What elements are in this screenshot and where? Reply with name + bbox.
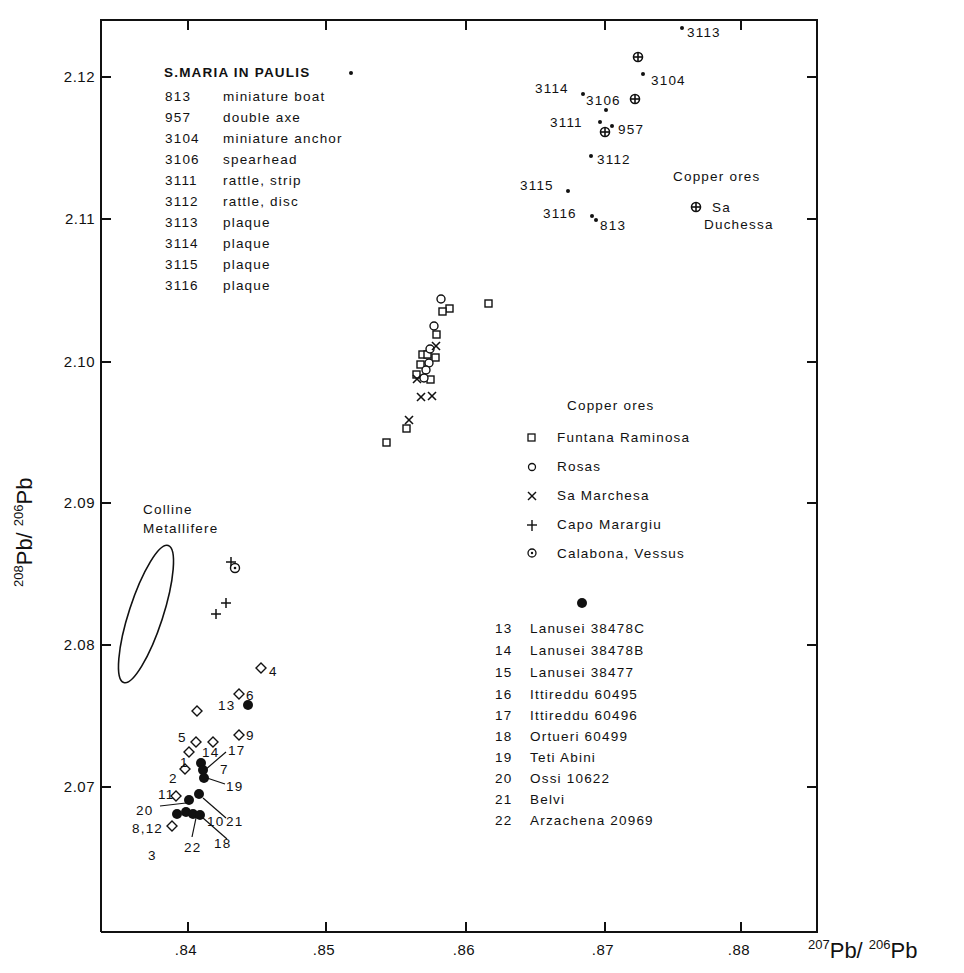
item-id: 22 [495,813,512,828]
colline-metallifere-region: Colline Metallifere [108,502,219,688]
legend-label: Funtana Raminosa [557,430,690,445]
y-tick-label: 2.09 [64,494,95,511]
item-id: 19 [495,750,512,765]
y-tick-label: 2.07 [64,778,95,795]
item-id: 3104 [165,131,200,146]
data-point [590,214,594,218]
item-label: double axe [223,110,301,125]
filled-circle-legend: 13 Lanusei 38478C 14 Lanusei 38478B 15 L… [495,621,654,828]
item-label: plaque [223,215,271,230]
x-tick-label: .86 [453,941,475,958]
square-marker-icon [528,434,535,441]
item-label: Arzachena 20969 [530,813,654,828]
item-label: miniature boat [223,89,325,104]
item-id: 20 [495,771,512,786]
item-id: 18 [495,729,512,744]
copper-ores-heading: Copper ores [673,169,761,184]
point-label: 21 [226,814,243,829]
copper-ores-heading: Copper ores [567,398,655,413]
data-point [589,154,593,158]
plus-marker-icon [527,520,537,531]
point-label: 813 [600,218,626,233]
item-id: 3116 [165,278,199,293]
legend-label: Calabona, Vessus [557,546,685,561]
point-label: 1 [180,755,189,770]
item-id: 15 [495,665,512,680]
x-axis-title: 207Pb/ 206Pb [808,937,917,963]
item-label: miniature anchor [223,131,343,146]
plot-frame [101,20,817,932]
calabona-point [231,564,240,573]
data-point [610,124,614,128]
item-id: 3115 [165,257,199,272]
small-dot-icon [349,71,353,75]
copper-ores-legend: Copper ores Funtana Raminosa Rosas Sa Ma… [527,398,690,561]
item-id: 21 [495,792,512,807]
point-label: 957 [618,122,644,137]
point-label: 5 [178,730,187,745]
data-point [680,26,684,30]
item-label: rattle, strip [223,173,302,188]
y-tick-label: 2.11 [65,210,95,227]
s-maria-point-labels: 3113 3104 3114 3106 3111 957 3112 3115 3… [520,25,721,233]
data-point [581,92,585,96]
point-label: 3 [148,848,157,863]
item-label: Lanusei 38477 [530,665,634,680]
point-label: 3111 [550,115,583,130]
data-point [594,218,598,222]
crossed-circle-icon [601,128,610,137]
s-maria-title: S.MARIA IN PAULIS [164,65,310,80]
item-id: 3112 [165,194,199,209]
item-id: 17 [495,708,512,723]
point-label: 22 [184,840,201,855]
item-id: 3113 [165,215,199,230]
point-label: 7 [220,762,229,777]
y-tick-labels: 2.07 2.08 2.09 2.10 2.11 2.12 [64,68,95,795]
dotted-circle-marker-icon [528,549,536,557]
point-label: 3113 [687,25,721,40]
x-tick-labels: .84 .85 .86 .87 .88 [175,941,750,958]
circle-marker-icon [529,464,536,471]
item-id: 13 [495,621,512,636]
item-label: Lanusei 38478C [530,621,645,636]
point-label: 13 [218,698,235,713]
plus-marker-icon [221,598,231,608]
point-label: 3112 [597,152,631,167]
item-label: plaque [223,278,271,293]
x-marker-icon [528,492,536,500]
point-label: 3115 [520,178,554,193]
legend-label: Capo Marargiu [557,517,662,532]
item-id: 957 [165,110,191,125]
y-axis-title: 208Pb/ 206Pb [11,478,37,587]
item-label: Lanusei 38478B [530,643,644,658]
x-tick-label: .85 [313,941,335,958]
x-marker-icon [428,392,436,400]
point-label: 6 [246,688,255,703]
point-label: 9 [246,728,255,743]
data-point [604,108,608,112]
s-maria-legend: S.MARIA IN PAULIS 813 miniature boat 957… [164,65,353,293]
x-marker-icon [417,393,425,401]
point-label: 19 [226,779,243,794]
item-label: Belvi [530,792,565,807]
plus-marker-icon [211,609,221,619]
x-tick-label: .87 [592,941,614,958]
y-tick-label: 2.12 [64,68,95,85]
point-label: 10 [207,814,224,829]
item-label: Teti Abini [530,750,596,765]
point-label: 17 [228,743,245,758]
point-label: 20 [136,803,153,818]
colline-label-line1: Colline [143,502,193,517]
x-tick-label: .88 [728,941,750,958]
point-label: 14 [202,745,219,760]
sa-duchessa-label: Copper ores Sa Duchessa [673,169,774,232]
item-label: plaque [223,236,271,251]
item-label: Ittireddu 60495 [530,687,638,702]
legend-label: Rosas [557,459,601,474]
point-label: 2 [169,771,178,786]
item-label: rattle, disc [223,194,299,209]
scatter-chart: .84 .85 .86 .87 .88 2.07 2.08 2.09 2.10 … [0,0,964,973]
item-label: plaque [223,257,271,272]
crossed-circle-icon [634,53,643,62]
point-label: 3114 [535,81,569,96]
